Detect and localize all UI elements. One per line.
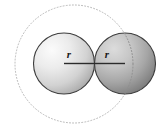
- right-radius-label: r: [105, 48, 110, 60]
- figure-container: r r: [0, 0, 161, 128]
- geometry-diagram: r r: [0, 0, 161, 128]
- left-radius-label: r: [67, 48, 72, 60]
